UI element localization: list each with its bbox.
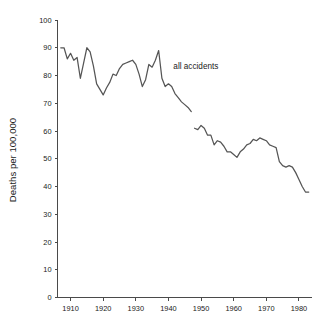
- x-tick-label: 1960: [225, 304, 241, 313]
- y-axis-title-text: Deaths per 100,000: [7, 118, 18, 202]
- series-annotations: all accidents: [173, 62, 218, 71]
- x-tick-label: 1910: [62, 304, 78, 313]
- x-tick-label: 1930: [128, 304, 144, 313]
- y-tick-label: 40: [43, 182, 51, 191]
- y-tick-label: 90: [43, 43, 51, 52]
- y-tick-label: 30: [43, 210, 51, 219]
- y-tick-label: 70: [43, 99, 51, 108]
- x-tick-label: 1970: [258, 304, 274, 313]
- y-tick-label: 0: [47, 293, 51, 302]
- x-tick-label: 1940: [160, 304, 176, 313]
- line-chart: Deaths per 100,000 010203040506070809010…: [0, 0, 330, 330]
- y-tick-label: 100: [39, 16, 51, 25]
- x-tick-label: 1950: [193, 304, 209, 313]
- y-tick-label: 60: [43, 127, 51, 136]
- y-tick-label: 50: [43, 154, 51, 163]
- series-line: [61, 48, 192, 112]
- y-axis-title: Deaths per 100,000: [7, 118, 18, 202]
- y-tick-label: 10: [43, 265, 51, 274]
- series-annotation-label: all accidents: [173, 62, 218, 71]
- y-axis-ticks: 0102030405060708090100: [39, 16, 57, 303]
- series-line: [195, 125, 309, 192]
- x-tick-label: 1920: [95, 304, 111, 313]
- x-tick-label: 1980: [291, 304, 307, 313]
- y-tick-label: 80: [43, 71, 51, 80]
- chart-figure: Deaths per 100,000 010203040506070809010…: [0, 0, 330, 330]
- x-axis-ticks: 19101920193019401950196019701980: [62, 298, 307, 314]
- y-tick-label: 20: [43, 238, 51, 247]
